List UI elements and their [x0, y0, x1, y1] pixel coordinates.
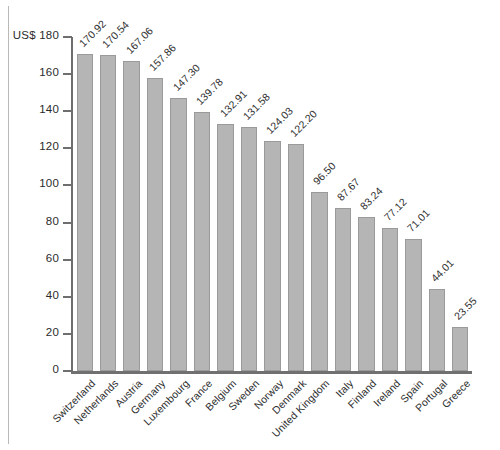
y-tick-mark	[63, 36, 72, 38]
y-tick-mark	[63, 184, 72, 186]
y-tick-mark	[63, 333, 72, 335]
bar[interactable]	[288, 144, 304, 371]
bar-slot: 122.20	[288, 37, 304, 371]
y-tick-mark	[63, 73, 72, 75]
bar-slot: 77.12	[382, 37, 398, 371]
bar[interactable]	[429, 289, 445, 371]
y-tick-mark	[63, 222, 72, 224]
y-tick-label: 160	[0, 66, 59, 78]
bar[interactable]	[194, 112, 210, 371]
bar[interactable]	[264, 141, 280, 371]
bar[interactable]	[382, 228, 398, 371]
y-tick-label: 120	[0, 140, 59, 152]
y-tick-mark	[63, 259, 72, 261]
bar-slot: 23.55	[452, 37, 468, 371]
y-tick-label: 40	[0, 289, 59, 301]
bar-slot: 87.67	[335, 37, 351, 371]
bar-value-label: 23.55	[452, 295, 479, 322]
x-axis-category-labels: SwitzerlandNetherlandsAustriaGermanyLuxe…	[73, 377, 472, 447]
y-tick-label: 20	[0, 326, 59, 338]
bar[interactable]	[405, 239, 421, 371]
bar[interactable]	[170, 98, 186, 371]
bar-slot: 157.86	[147, 37, 163, 371]
bar[interactable]	[335, 208, 351, 371]
y-tick-label: US$ 180	[0, 29, 59, 41]
bar[interactable]	[241, 127, 257, 371]
bar[interactable]	[147, 78, 163, 371]
y-tick-label: 140	[0, 103, 59, 115]
bar-slot: 139.78	[194, 37, 210, 371]
x-axis-baseline	[71, 371, 472, 374]
bar[interactable]	[452, 327, 468, 371]
bar-slot: 44.01	[429, 37, 445, 371]
y-tick-label: 80	[0, 215, 59, 227]
y-tick-mark	[63, 147, 72, 149]
y-tick-label: 0	[0, 363, 59, 375]
bar-slot: 132.91	[217, 37, 233, 371]
bar-chart: 020406080100120140160US$ 180 170.92170.5…	[0, 0, 500, 450]
bar-slot: 124.03	[264, 37, 280, 371]
y-tick-label: 60	[0, 252, 59, 264]
bar-slot: 147.30	[170, 37, 186, 371]
plot-area: 170.92170.54167.06157.86147.30139.78132.…	[73, 37, 472, 371]
bar[interactable]	[100, 55, 116, 371]
y-tick-mark	[63, 296, 72, 298]
bar[interactable]	[358, 217, 374, 371]
y-tick-label: 100	[0, 177, 59, 189]
bar-slot: 170.92	[77, 37, 93, 371]
bar[interactable]	[77, 54, 93, 371]
bar-slot: 131.58	[241, 37, 257, 371]
bar[interactable]	[123, 61, 139, 371]
bar-slot: 71.01	[405, 37, 421, 371]
bar-slot: 170.54	[100, 37, 116, 371]
y-tick-mark	[63, 370, 72, 372]
bar[interactable]	[217, 124, 233, 371]
bar-slot: 83.24	[358, 37, 374, 371]
bar-slot: 167.06	[123, 37, 139, 371]
y-tick-mark	[63, 110, 72, 112]
bar-slot: 96.50	[311, 37, 327, 371]
bar[interactable]	[311, 192, 327, 371]
